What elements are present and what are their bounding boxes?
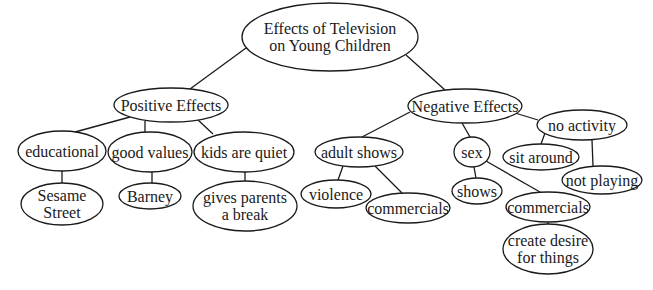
node-sesame: SesameStreet: [21, 183, 103, 225]
node-create-desire: create desirefor things: [503, 224, 593, 274]
node-commercials-adult: commercials: [366, 193, 450, 223]
node-shows: shows: [452, 178, 502, 204]
edge-adult-shows-to-violence: [338, 166, 343, 180]
node-label: adult shows: [321, 144, 397, 161]
edge-negative-to-no-activity: [515, 113, 538, 120]
node-label: commercials: [367, 200, 449, 217]
node-commercials-sex: commercials: [506, 192, 590, 222]
edge-positive-to-educational: [75, 117, 130, 132]
concept-map: Effects of Televisionon Young ChildrenPo…: [0, 0, 653, 290]
node-label: Barney: [127, 188, 173, 206]
node-label: Sesame: [38, 187, 87, 204]
edge-adult-shows-to-commercials-adult: [375, 166, 402, 193]
node-sex: sex: [454, 137, 490, 167]
node-label: create desire: [508, 232, 588, 249]
concept-map-canvas: Effects of Televisionon Young ChildrenPo…: [0, 0, 653, 290]
node-sit-around: sit around: [503, 144, 579, 170]
node-label: sit around: [509, 149, 573, 166]
edge-negative-to-sex: [462, 123, 470, 137]
node-negative: Negative Effects: [408, 89, 522, 123]
node-label: educational: [25, 143, 99, 160]
node-label: shows: [457, 183, 497, 200]
node-positive: Positive Effects: [114, 88, 228, 122]
node-label: Effects of Television: [264, 20, 396, 37]
node-label: kids are quiet: [201, 144, 288, 162]
node-barney: Barney: [119, 183, 181, 209]
node-label: a break: [222, 206, 269, 223]
node-label: no activity: [548, 117, 616, 135]
node-label: Positive Effects: [121, 97, 222, 114]
node-good-values: good values: [108, 132, 192, 172]
edge-root-to-positive: [190, 48, 246, 89]
node-label: Street: [43, 204, 81, 221]
node-adult-shows: adult shows: [315, 137, 403, 167]
node-violence: violence: [301, 180, 371, 208]
node-label: not playing: [566, 172, 638, 190]
edge-root-to-negative: [406, 55, 445, 90]
node-label: sex: [461, 144, 482, 161]
node-no-activity: no activity: [537, 110, 627, 140]
node-parents-break: gives parentsa break: [193, 181, 297, 231]
node-root: Effects of Televisionon Young Children: [242, 3, 418, 71]
edge-sex-to-shows: [474, 167, 476, 178]
node-label: on Young Children: [269, 37, 390, 55]
edge-positive-to-kids-quiet: [198, 120, 213, 134]
node-educational: educational: [18, 131, 106, 171]
edge-no-activity-to-sit-around: [541, 133, 545, 144]
node-label: for things: [517, 249, 579, 267]
node-kids-quiet: kids are quiet: [194, 132, 294, 172]
node-label: violence: [309, 186, 363, 203]
nodes-layer: Effects of Televisionon Young ChildrenPo…: [18, 3, 642, 274]
node-label: Negative Effects: [412, 98, 519, 116]
node-not-playing: not playing: [562, 166, 642, 194]
node-label: commercials: [507, 199, 589, 216]
node-label: good values: [112, 144, 189, 162]
edge-negative-to-adult-shows: [362, 112, 410, 137]
edge-no-activity-to-not-playing: [592, 140, 593, 166]
node-label: gives parents: [203, 189, 287, 207]
